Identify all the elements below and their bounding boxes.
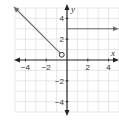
y-tick-2: 2 [60, 35, 65, 44]
x-tick-neg4: −4 [21, 63, 31, 72]
y-tick-4: 4 [60, 14, 65, 23]
x-tick-neg2: −2 [42, 63, 52, 72]
y-tick-neg4: −4 [55, 98, 65, 107]
right-ray-arrow-icon [113, 27, 119, 31]
y-axis-down-arrow-icon [65, 110, 70, 116]
y-tick-neg2: −2 [55, 77, 65, 86]
coordinate-plane: −4 −2 2 4 4 2 −2 −4 y x [0, 0, 119, 122]
open-circle-endpoint [59, 52, 64, 57]
x-tick-2: 2 [86, 63, 91, 72]
y-axis-up-arrow-icon [65, 4, 70, 10]
y-axis-label: y [70, 4, 75, 14]
x-axis-right-arrow-icon [113, 58, 119, 63]
x-axis-label: x [110, 48, 115, 58]
series-right-piece [67, 27, 119, 31]
x-tick-4: 4 [106, 63, 111, 72]
axes [14, 4, 119, 116]
